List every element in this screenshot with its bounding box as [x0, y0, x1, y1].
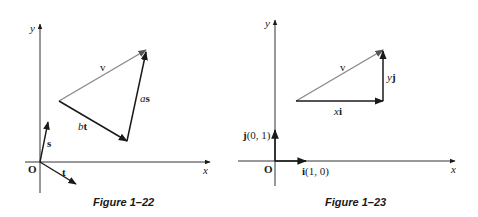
figure-1-22: y x O s t v bt as Figure 1–22 — [25, 22, 210, 208]
vector-i-label: i(1, 0) — [302, 165, 329, 178]
vector-t-label: t — [62, 166, 66, 178]
vector-v — [59, 50, 146, 101]
origin-label: O — [28, 163, 37, 175]
x-axis-label: x — [202, 164, 208, 176]
origin-label: O — [264, 163, 273, 175]
vector-bt — [59, 101, 127, 141]
y-axis-label: y — [29, 22, 35, 34]
vector-v-label: v — [100, 61, 106, 73]
vector-s-label: s — [47, 137, 52, 149]
vector-v-label: v — [340, 61, 346, 73]
figure-1-23: y x O j(0, 1) i(1, 0) v xi yj Figure 1–2… — [238, 17, 456, 208]
y-axis-label: y — [264, 17, 270, 29]
vector-as-label: as — [140, 92, 151, 104]
vector-xi-label: xi — [333, 105, 342, 117]
vector-bt-label: bt — [78, 120, 88, 132]
vector-j-label: j(0, 1) — [242, 129, 271, 142]
x-axis-label: x — [450, 163, 456, 175]
vector-yj-label: yj — [386, 71, 396, 83]
figure-caption: Figure 1–23 — [325, 196, 386, 208]
vector-v — [296, 50, 383, 101]
diagram-canvas: y x O s t v bt as Figure 1–22 y x O j(0,… — [0, 0, 478, 217]
vector-t — [40, 162, 76, 184]
figure-caption: Figure 1–22 — [93, 196, 154, 208]
